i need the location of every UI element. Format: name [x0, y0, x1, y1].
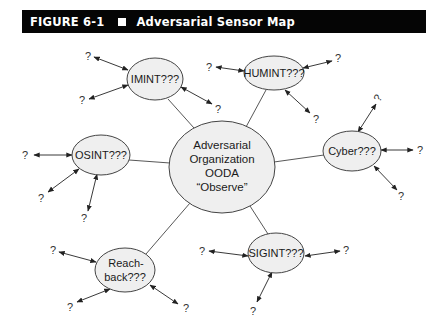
unknown-marker: ? [81, 212, 87, 224]
node-osint-label: OSINT??? [75, 149, 127, 161]
node-reachback-line-1: Reach- [108, 257, 144, 269]
unknown-marker: ? [313, 113, 319, 125]
unknown-marker: ? [199, 245, 205, 257]
unknown-marker: ? [50, 244, 56, 256]
center-line-4: “Observe” [196, 181, 247, 193]
node-cyber: Cyber??? [323, 131, 381, 171]
sensor-map-diagram: Adversarial Organization OODA “Observe” … [0, 0, 444, 327]
node-humint-label: HUMINT??? [243, 67, 304, 79]
node-sigint: SIGINT??? [248, 233, 304, 273]
node-imint: IMINT??? [127, 58, 183, 100]
center-node: Adversarial Organization OODA “Observe” [169, 121, 275, 213]
node-osint: OSINT??? [72, 135, 130, 175]
unknown-marker: ? [22, 149, 28, 161]
unknown-marker: ? [67, 301, 73, 313]
unknown-marker: ? [79, 94, 85, 106]
unknown-marker: ? [206, 61, 212, 73]
node-reachback-line-2: back??? [104, 271, 146, 283]
center-line-3: OODA [205, 167, 239, 179]
unknown-marker: ? [343, 244, 349, 256]
node-sigint-label: SIGINT??? [248, 247, 303, 259]
node-cyber-label: Cyber??? [328, 145, 376, 157]
unknown-marker: ? [183, 302, 189, 314]
node-imint-label: IMINT??? [131, 73, 179, 85]
node-humint: HUMINT??? [243, 56, 304, 90]
unknown-marker: ? [250, 305, 256, 317]
center-line-2: Organization [189, 153, 254, 165]
unknown-marker: ? [215, 103, 221, 115]
unknown-marker: ? [335, 52, 341, 64]
center-line-1: Adversarial [193, 139, 251, 151]
unknown-marker: ? [417, 144, 423, 156]
node-reachback: Reach- back??? [95, 248, 155, 292]
unknown-marker: ? [38, 192, 44, 204]
unknown-marker: ? [371, 92, 384, 103]
unknown-marker: ? [85, 50, 91, 62]
unknown-marker: ? [398, 190, 404, 202]
